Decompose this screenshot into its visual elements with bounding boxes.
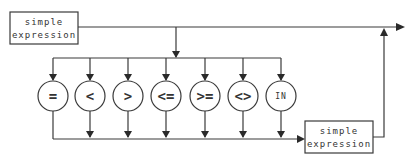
exit-arrow-icon [396,23,405,31]
operator-greater-than: > [113,58,143,138]
left-box-line1: simple [25,17,64,27]
right-box-line2: expression [307,139,371,149]
left-box-line2: expression [12,30,76,40]
operator-label: > [124,88,132,104]
return-arrow-icon [380,28,388,36]
operator-label: = [49,88,57,104]
operator-in: IN [266,58,296,138]
branch-drop-arrow-icon [172,51,180,58]
operator-label: >= [197,88,214,104]
operator-not-equal: <> [228,58,258,138]
syntax-diagram: simple expression simple expression = < … [0,0,411,164]
right-box-line1: simple [320,126,359,136]
operator-less-than: < [75,58,105,138]
left-simple-expression-box: simple expression [10,12,78,44]
operator-greater-or-equal: >= [190,58,220,138]
operator-label: < [86,88,94,104]
operator-equals: = [38,58,68,139]
return-line [373,34,384,137]
operator-label: <= [158,88,175,104]
operator-label: <> [235,88,252,104]
operator-label: IN [275,92,287,101]
operator-less-or-equal: <= [151,58,181,138]
right-simple-expression-box: simple expression [305,121,373,153]
collection-arrow-icon [297,135,305,143]
